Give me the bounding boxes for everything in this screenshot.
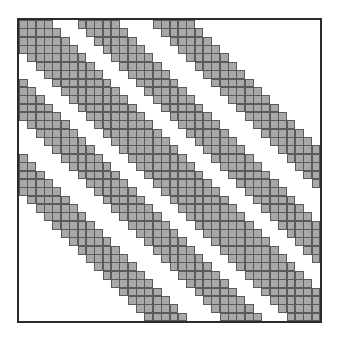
nonzero-cell [178,313,187,322]
sparsity-grid [19,20,320,321]
nonzero-cell [312,254,321,263]
matrix-frame [17,18,322,323]
nonzero-cell [312,313,321,322]
nonzero-cell [312,179,321,188]
nonzero-cell [253,313,262,322]
